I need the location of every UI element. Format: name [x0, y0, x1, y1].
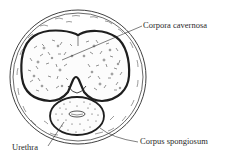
label-corpora-cavernosa: Corpora cavernosa: [143, 21, 207, 30]
label-urethra: Urethra: [12, 143, 38, 152]
label-corpus-spongiosum: Corpus spongiosum: [140, 137, 208, 146]
